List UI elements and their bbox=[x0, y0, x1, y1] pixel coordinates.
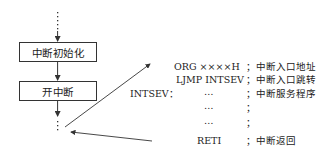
comment-return: ；中断返回 bbox=[246, 135, 296, 146]
step-label: 中断初始化 bbox=[32, 45, 85, 60]
code-label-intsev: INTSEV： bbox=[130, 88, 179, 99]
code-ellipsis-2: … bbox=[204, 100, 214, 111]
ellipsis-bottom-icon bbox=[57, 121, 58, 130]
code-ellipsis-3: … bbox=[204, 115, 214, 126]
ellipsis-top-icon bbox=[57, 12, 58, 29]
comment-blank-1: ； bbox=[246, 102, 256, 113]
comment-ljmp: ；中断入口跳转 bbox=[246, 74, 316, 85]
arrow-interrupt-return bbox=[71, 132, 152, 141]
step-label: 开中断 bbox=[42, 84, 74, 99]
comment-blank-2: ； bbox=[246, 117, 256, 128]
step-interrupt-init: 中断初始化 bbox=[19, 42, 97, 62]
code-ellipsis-1: … bbox=[204, 86, 214, 97]
code-reti: RETI bbox=[197, 135, 221, 146]
code-ljmp: LJMP INTSEV bbox=[176, 74, 244, 85]
comment-org: ；中断入口地址 bbox=[246, 61, 316, 72]
step-enable-interrupt: 开中断 bbox=[19, 81, 97, 101]
code-org: ORG ××××H bbox=[174, 61, 240, 72]
comment-service: ；中断服务程序 bbox=[246, 88, 316, 99]
